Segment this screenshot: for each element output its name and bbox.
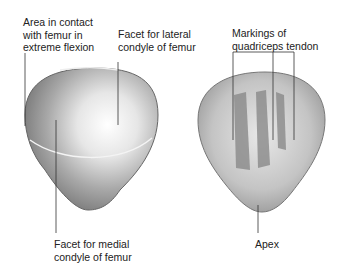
label-medial-facet: Facet for medial condyle of femur <box>54 238 132 263</box>
patella-posterior-view <box>25 68 158 210</box>
label-apex: Apex <box>255 238 279 251</box>
label-area-in-contact: Area in contact with femur in extreme fl… <box>23 16 94 54</box>
label-line: Facet for medial <box>54 238 132 251</box>
label-line: extreme flexion <box>23 41 94 54</box>
label-line: Markings of <box>232 27 318 40</box>
label-line: with femur in <box>23 29 94 42</box>
patella-anterior-view <box>198 72 325 212</box>
label-line: condyle of femur <box>118 41 196 54</box>
label-quadriceps-markings: Markings of quadriceps tendon <box>232 27 318 52</box>
label-line: Area in contact <box>23 16 94 29</box>
label-line: Apex <box>255 238 279 251</box>
label-lateral-facet: Facet for lateral condyle of femur <box>118 28 196 53</box>
label-line: condyle of femur <box>54 251 132 264</box>
label-line: quadriceps tendon <box>232 40 318 53</box>
label-line: Facet for lateral <box>118 28 196 41</box>
